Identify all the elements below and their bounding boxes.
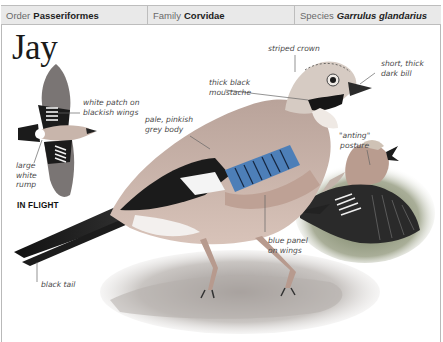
- bird-illustrations: [0, 0, 443, 342]
- annotation-line: dark bill: [381, 69, 424, 79]
- annotation-blue-panel: blue panel on wings: [268, 236, 308, 255]
- annotation-black-tail: black tail: [41, 280, 75, 290]
- annotation-pale-body: pale, pinkish grey body: [145, 115, 193, 134]
- annotation-line: posture: [339, 141, 370, 151]
- annotation-anting-posture: "anting" posture: [339, 131, 370, 150]
- annotation-line: white patch on: [83, 98, 140, 108]
- annotation-striped-crown: striped crown: [268, 44, 320, 54]
- annotation-line: moustache: [209, 88, 251, 98]
- branch-illustration: [100, 250, 380, 334]
- annotation-line: large: [16, 161, 37, 171]
- annotation-bill: short, thick dark bill: [381, 59, 424, 78]
- annotation-line: blue panel: [268, 236, 308, 246]
- species-page: Order Passeriformes Family Corvidae Spec…: [0, 0, 443, 342]
- annotation-line: pale, pinkish: [145, 115, 193, 125]
- annotation-large-rump: large white rump: [16, 161, 37, 190]
- annotation-line: on wings: [268, 246, 308, 256]
- annotation-line: "anting": [339, 131, 370, 141]
- annotation-line: white: [16, 171, 37, 181]
- annotation-line: rump: [16, 180, 37, 190]
- annotation-line: thick black: [209, 78, 251, 88]
- annotation-line: grey body: [145, 125, 193, 135]
- annotation-moustache: thick black moustache: [209, 78, 251, 97]
- annotation-line: short, thick: [381, 59, 424, 69]
- annotation-white-patch: white patch on blackish wings: [83, 98, 140, 117]
- in-flight-caption: IN FLIGHT: [17, 201, 59, 210]
- annotation-line: blackish wings: [83, 108, 140, 118]
